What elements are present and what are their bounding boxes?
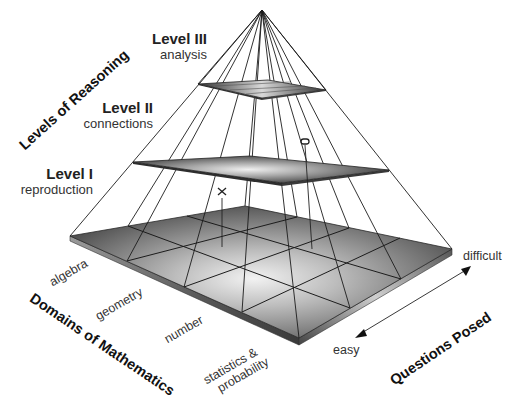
base-plane bbox=[70, 206, 452, 345]
level-1-label: Level I reproduction bbox=[10, 165, 93, 197]
difficulty-difficult-label: difficult bbox=[463, 249, 502, 263]
difficulty-easy-label: easy bbox=[333, 343, 359, 357]
level-1-title: Level I bbox=[10, 165, 93, 182]
level-2-label: Level II connections bbox=[70, 99, 153, 131]
level-2-description: connections bbox=[70, 116, 153, 131]
level-3-title: Level III bbox=[120, 30, 207, 47]
level-3-description: analysis bbox=[120, 47, 207, 62]
level-1-description: reproduction bbox=[10, 182, 93, 197]
level-3-label: Level III analysis bbox=[120, 30, 207, 62]
